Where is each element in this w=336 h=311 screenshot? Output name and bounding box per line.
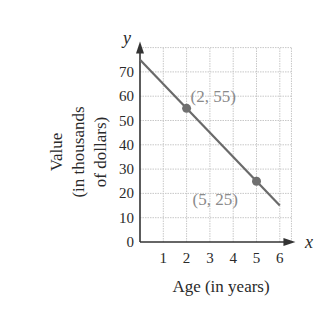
x-tick-label: 2 [183, 250, 191, 266]
y-axis-label-line: of dollars) [91, 117, 110, 187]
y-tick-label: 40 [119, 137, 134, 153]
y-tick-label: 70 [119, 64, 134, 80]
x-tick-label: 6 [276, 250, 284, 266]
y-tick-label: 10 [119, 210, 134, 226]
y-tick-label: 20 [119, 185, 134, 201]
x-axis-variable: x [304, 232, 313, 252]
data-points: (2, 55)(5, 25) [182, 87, 261, 209]
y-axis-label: Value(in thousandsof dollars) [47, 106, 110, 197]
y-tick-label: 30 [119, 161, 134, 177]
y-tick-label: 0 [127, 234, 135, 250]
x-tick-label: 4 [229, 250, 237, 266]
x-axis-label: Age (in years) [172, 277, 269, 296]
y-tick-label: 60 [119, 88, 134, 104]
data-point-marker [252, 177, 261, 186]
x-axis-arrow-icon [283, 238, 295, 246]
y-tick-label: 50 [119, 113, 134, 129]
x-tick-label: 5 [253, 250, 261, 266]
y-axis-variable: y [121, 28, 131, 48]
x-tick-label: 3 [206, 250, 214, 266]
line-chart: 123456010203040506070 (2, 55)(5, 25) y x… [0, 0, 336, 311]
x-tick-label: 1 [160, 250, 168, 266]
y-axis-label-line: Value [47, 133, 66, 172]
data-point-label: (5, 25) [193, 190, 238, 209]
y-axis-label-line: (in thousands [69, 106, 88, 197]
data-point-label: (2, 55) [191, 87, 236, 106]
grid-lines [140, 48, 291, 242]
